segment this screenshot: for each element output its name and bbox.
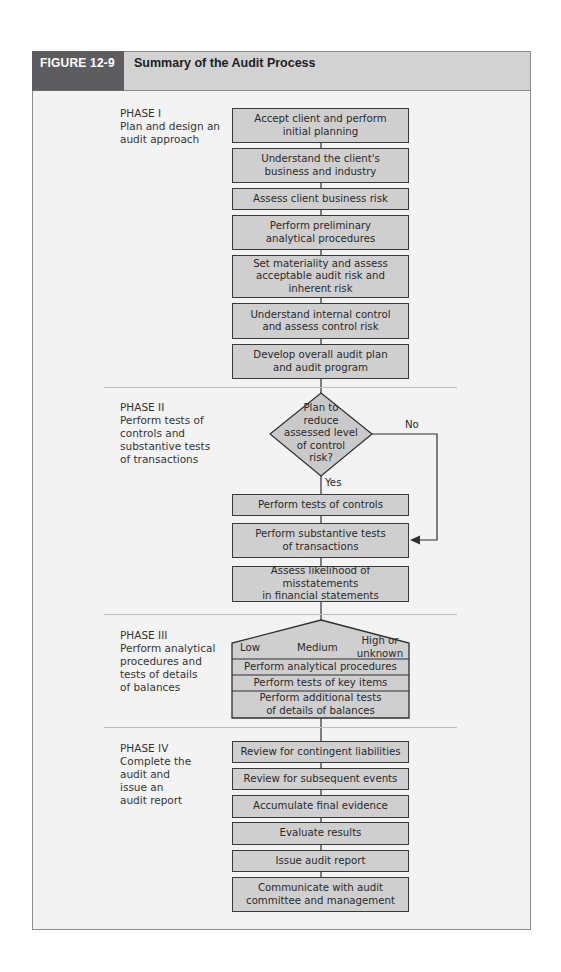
step-set-materiality: Set materiality and assess acceptable au… [232, 255, 409, 298]
step-issue-report: Issue audit report [232, 850, 409, 872]
step-tests-of-controls: Perform tests of controls [232, 494, 409, 516]
phase-divider [104, 614, 457, 615]
step-assess-misstatements: Assess likelihood of misstatements in fi… [232, 566, 409, 602]
step-contingent-liabilities: Review for contingent liabilities [232, 741, 409, 763]
step-understand-business: Understand the client's business and ind… [232, 148, 409, 183]
step-substantive-tests: Perform substantive tests of transaction… [232, 523, 409, 558]
step-analytical-procedures: Perform analytical procedures [232, 659, 409, 675]
step-accept-client: Accept client and perform initial planni… [232, 108, 409, 143]
phase-2-label: PHASE II Perform tests of controls and s… [120, 401, 210, 466]
yes-label: Yes [325, 477, 341, 488]
step-audit-plan: Develop overall audit plan and audit pro… [232, 344, 409, 379]
step-additional-tests: Perform additional tests of details of b… [232, 691, 409, 718]
step-communicate: Communicate with audit committee and man… [232, 877, 409, 912]
level-low: Low [240, 642, 260, 653]
phase-divider [104, 387, 457, 388]
arrowhead-icon [410, 536, 420, 545]
step-preliminary-analytics: Perform preliminary analytical procedure… [232, 215, 409, 250]
decision-question: Plan to reduce assessed level of control… [281, 402, 361, 465]
phase-4-label: PHASE IV Complete the audit and issue an… [120, 742, 191, 807]
step-evaluate-results: Evaluate results [232, 822, 409, 845]
phase-1-label: PHASE I Plan and design an audit approac… [120, 107, 220, 146]
level-high: High or unknown [352, 635, 408, 660]
step-subsequent-events: Review for subsequent events [232, 768, 409, 790]
phase-divider [104, 727, 457, 728]
no-label: No [405, 419, 419, 430]
step-internal-control: Understand internal control and assess c… [232, 303, 409, 339]
step-assess-business-risk: Assess client business risk [232, 188, 409, 210]
step-key-items: Perform tests of key items [232, 675, 409, 691]
level-medium: Medium [297, 642, 338, 653]
phase-3-label: PHASE III Perform analytical procedures … [120, 629, 215, 694]
step-final-evidence: Accumulate final evidence [232, 795, 409, 818]
